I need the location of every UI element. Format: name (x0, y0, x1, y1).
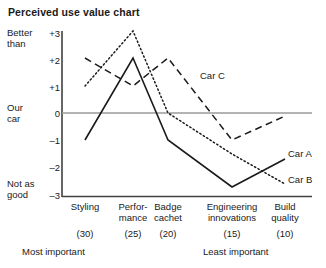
series-label-car-c: Car C (200, 70, 225, 81)
x-category-label-badge-cachet: Badge cachet (139, 202, 197, 223)
importance-note-most: Most important (22, 246, 85, 257)
x-category-build-quality-line1: Build (258, 202, 312, 213)
x-weight-build-quality: (10) (258, 228, 312, 239)
perceived-use-value-chart: Perceived use value chart +3 +2 +1 0 –1 … (0, 0, 326, 268)
x-category-badge-cachet-line2: cachet (139, 213, 197, 224)
series-line-car-c (85, 58, 285, 140)
x-category-build-quality-line2: quality (258, 213, 312, 224)
x-category-badge-cachet-line1: Badge (139, 202, 197, 213)
importance-note-least: Least important (203, 246, 268, 257)
series-label-car-a: Car A (288, 148, 312, 159)
x-category-label-build-quality: Build quality (258, 202, 312, 223)
series-line-car-b (85, 31, 285, 184)
x-weight-badge-cachet: (20) (139, 228, 197, 239)
series-label-car-b: Car B (288, 174, 312, 185)
